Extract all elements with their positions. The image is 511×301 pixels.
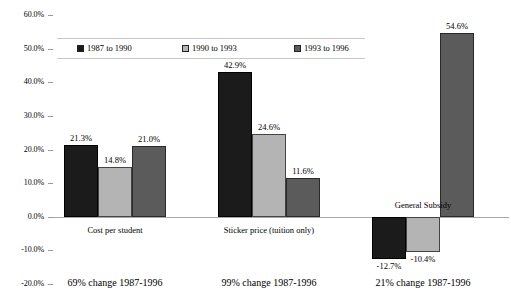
bar-value-label: 14.8% bbox=[93, 155, 137, 165]
y-axis-tick-label: 10.0% bbox=[2, 178, 44, 187]
category-label: General Subsidy bbox=[353, 200, 493, 210]
legend-swatch-icon bbox=[77, 45, 84, 52]
legend-label: 1990 to 1993 bbox=[192, 43, 237, 53]
bar-value-label: 21.3% bbox=[59, 133, 103, 143]
legend-item: 1993 to 1996 bbox=[294, 43, 349, 53]
bar-value-label: 21.0% bbox=[127, 134, 171, 144]
y-axis-tick-mark bbox=[48, 82, 53, 83]
y-axis-tick-label: -10.0% bbox=[2, 245, 44, 254]
category-label: Cost per student bbox=[45, 225, 185, 235]
bar-value-label: 24.6% bbox=[247, 122, 291, 132]
y-axis-tick-mark bbox=[48, 150, 53, 151]
legend-swatch-icon bbox=[182, 45, 189, 52]
bar-value-label: 54.6% bbox=[435, 21, 479, 31]
bar bbox=[440, 33, 474, 217]
legend-item: 1987 to 1990 bbox=[77, 43, 132, 53]
y-axis-tick-label: 0.0% bbox=[2, 212, 44, 221]
y-axis-tick-label: 20.0% bbox=[2, 145, 44, 154]
legend-label: 1993 to 1996 bbox=[304, 43, 349, 53]
category-label: Sticker price (tuition only) bbox=[199, 225, 339, 235]
legend-label: 1987 to 1990 bbox=[87, 43, 132, 53]
y-axis-tick-mark bbox=[48, 250, 53, 251]
y-axis-tick-mark bbox=[48, 116, 53, 117]
y-axis-tick-mark bbox=[48, 15, 53, 16]
y-axis-tick-label: 50.0% bbox=[2, 44, 44, 53]
bar-value-label: -10.4% bbox=[401, 254, 445, 264]
group-annotation: 99% change 1987-1996 bbox=[189, 277, 349, 288]
bar bbox=[406, 217, 440, 252]
bar bbox=[98, 167, 132, 217]
bar-value-label: 42.9% bbox=[213, 60, 257, 70]
y-axis-tick-mark bbox=[48, 183, 53, 184]
bar bbox=[132, 146, 166, 217]
y-axis-tick-label: 40.0% bbox=[2, 77, 44, 86]
group-annotation: 69% change 1987-1996 bbox=[35, 277, 195, 288]
legend-swatch-icon bbox=[294, 45, 301, 52]
bar-value-label: 11.6% bbox=[281, 166, 325, 176]
bar bbox=[218, 72, 252, 216]
bar bbox=[286, 178, 320, 217]
y-axis-tick-label: 30.0% bbox=[2, 111, 44, 120]
y-axis-tick-label: 60.0% bbox=[2, 10, 44, 19]
chart-legend: 1987 to 19901990 to 19931993 to 1996 bbox=[57, 38, 365, 59]
y-axis-tick-mark bbox=[48, 49, 53, 50]
bar-chart: 1987 to 19901990 to 19931993 to 1996 60.… bbox=[0, 0, 511, 301]
group-annotation: 21% change 1987-1996 bbox=[343, 277, 503, 288]
legend-item: 1990 to 1993 bbox=[182, 43, 237, 53]
zero-baseline bbox=[53, 217, 509, 218]
